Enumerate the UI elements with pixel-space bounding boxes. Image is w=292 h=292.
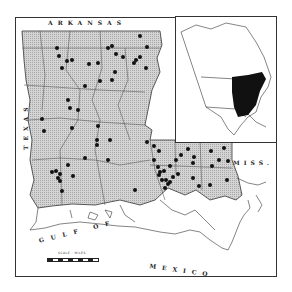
north-america-inset: [175, 16, 277, 143]
range-fill: [232, 72, 266, 117]
label-arkansas: ARKANSAS: [48, 19, 126, 26]
scale-bar: [47, 258, 99, 262]
label-texas: TEXAS: [22, 103, 29, 150]
label-mississippi: MISS.: [233, 159, 273, 166]
north-america-map: [176, 17, 276, 142]
scale-label: SCALE · MILES: [58, 251, 86, 255]
